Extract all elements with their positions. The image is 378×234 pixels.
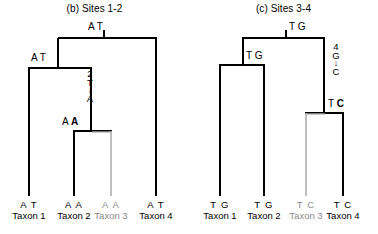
panel-sites-3-4: (c) Sites 3-4 T G — [189, 0, 378, 234]
panel-b-root-state-label: A T — [88, 22, 103, 32]
mutation-to-state: C — [327, 67, 345, 76]
tip-name: Taxon 4 — [314, 210, 372, 221]
node-ancestor-23-bold: A — [71, 116, 78, 127]
panel-sites-1-2: (b) Sites 1-2 A T — [0, 0, 189, 234]
panel-c-node-ancestor-34-label: T C — [328, 99, 344, 109]
panel-c-mutation-annotation: 4 G ↓ C — [327, 42, 345, 76]
panel-b-mutation-annotation: 2 T ↓ A — [81, 69, 99, 103]
node-ancestor-23-plain: A — [62, 116, 71, 127]
panel-b-node-ancestor-23-label: A A — [62, 117, 78, 127]
tip-state: A T — [127, 199, 185, 210]
mutation-to-state: A — [81, 94, 99, 103]
node-ancestor-34-bold: C — [337, 98, 344, 109]
tip-state: T C — [314, 199, 372, 210]
phylogeny-figure: (b) Sites 1-2 A T — [0, 0, 378, 234]
panel-b-node-ancestor-12-label: A T — [31, 53, 46, 63]
panel-c-root-state-label: T G — [289, 22, 305, 32]
tip-name: Taxon 4 — [127, 210, 185, 221]
panel-c-node-ancestor-12-label: T G — [246, 51, 262, 61]
panel-c-tip-taxon-4: T C Taxon 4 — [314, 199, 372, 221]
node-ancestor-34-plain: T — [328, 98, 337, 109]
panel-b-tip-taxon-4: A T Taxon 4 — [127, 199, 185, 221]
